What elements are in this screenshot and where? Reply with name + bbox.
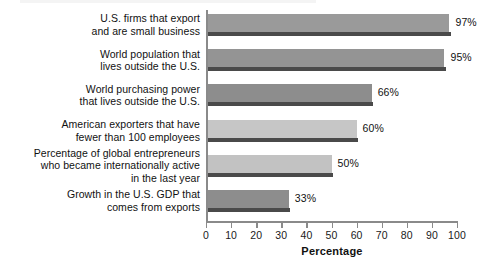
bar-shadow (208, 173, 334, 177)
x-axis-tick-label: 60 (351, 229, 363, 241)
bar[interactable] (206, 49, 444, 67)
category-label-line: who became internationally active (10, 159, 200, 172)
category-label: American exporters that havefewer than 1… (10, 118, 200, 143)
category-label-line: American exporters that have (10, 118, 200, 131)
bar-group[interactable]: 50% (206, 155, 457, 177)
bar-shadow (208, 138, 359, 142)
bar[interactable] (206, 84, 372, 102)
x-axis-tick (306, 222, 307, 228)
x-axis-tick-label: 70 (376, 229, 388, 241)
x-axis-tick (281, 222, 282, 228)
category-label: World population thatlives outside the U… (10, 48, 200, 73)
x-axis-tick-label: 20 (250, 229, 262, 241)
category-label: Growth in the U.S. GDP thatcomes from ex… (10, 188, 200, 213)
bar-shadow (208, 32, 451, 36)
bar-group[interactable]: 66% (206, 84, 457, 106)
category-label: U.S. firms that exportand are small busi… (10, 12, 200, 37)
x-axis-tick (332, 222, 333, 228)
category-label-column: U.S. firms that exportand are small busi… (10, 10, 200, 222)
x-axis-tick-label: 100 (448, 229, 466, 241)
category-label-line: that lives outside the U.S. (10, 95, 200, 108)
x-axis-tick-label: 90 (426, 229, 438, 241)
y-axis-line (206, 10, 208, 222)
bar-shadow (208, 208, 291, 212)
bar[interactable] (206, 155, 332, 173)
category-label-line: Growth in the U.S. GDP that (10, 188, 200, 201)
category-label: Percentage of global entrepreneurswho be… (10, 147, 200, 185)
bar-group[interactable]: 60% (206, 120, 457, 142)
x-axis-tick (382, 222, 383, 228)
bar-shadow (208, 102, 374, 106)
bar[interactable] (206, 190, 289, 208)
x-axis-tick (357, 222, 358, 228)
x-axis-tick (256, 222, 257, 228)
category-label-line: fewer than 100 employees (10, 131, 200, 144)
bar-value-label: 60% (363, 122, 384, 134)
bar-value-label: 95% (450, 51, 471, 63)
bar-chart: U.S. firms that exportand are small busi… (0, 0, 486, 273)
category-label-line: in the last year (10, 172, 200, 185)
bar-value-label: 97% (455, 16, 476, 28)
category-label-line: World purchasing power (10, 83, 200, 96)
top-edge-band (20, 0, 316, 3)
x-axis-tick-label: 80 (401, 229, 413, 241)
x-axis-tick-label: 0 (203, 229, 209, 241)
x-axis-tick-label: 10 (225, 229, 237, 241)
bar[interactable] (206, 14, 449, 32)
category-label-line: lives outside the U.S. (10, 60, 200, 73)
category-label-line: comes from exports (10, 201, 200, 214)
x-axis-title: Percentage (206, 245, 458, 257)
x-axis-tick (231, 222, 232, 228)
bar-group[interactable]: 33% (206, 190, 457, 212)
bar-group[interactable]: 95% (206, 49, 457, 71)
category-label-line: U.S. firms that export (10, 12, 200, 25)
x-axis-tick (432, 222, 433, 228)
category-label-line: Percentage of global entrepreneurs (10, 147, 200, 160)
x-axis-tick-label: 30 (275, 229, 287, 241)
bar-shadow (208, 67, 446, 71)
bar-group[interactable]: 97% (206, 14, 457, 36)
category-label-line: and are small business (10, 25, 200, 38)
x-axis-tick-label: 40 (300, 229, 312, 241)
bar[interactable] (206, 120, 357, 138)
bar-value-label: 33% (295, 192, 316, 204)
plot-area: 97%95%66%60%50%33% (206, 10, 457, 222)
category-label: World purchasing powerthat lives outside… (10, 83, 200, 108)
x-axis-tick (206, 222, 207, 228)
bar-value-label: 66% (378, 86, 399, 98)
x-axis-tick (457, 222, 458, 228)
x-axis-tick-label: 50 (326, 229, 338, 241)
x-axis-tick (407, 222, 408, 228)
bar-value-label: 50% (338, 157, 359, 169)
category-label-line: World population that (10, 48, 200, 61)
